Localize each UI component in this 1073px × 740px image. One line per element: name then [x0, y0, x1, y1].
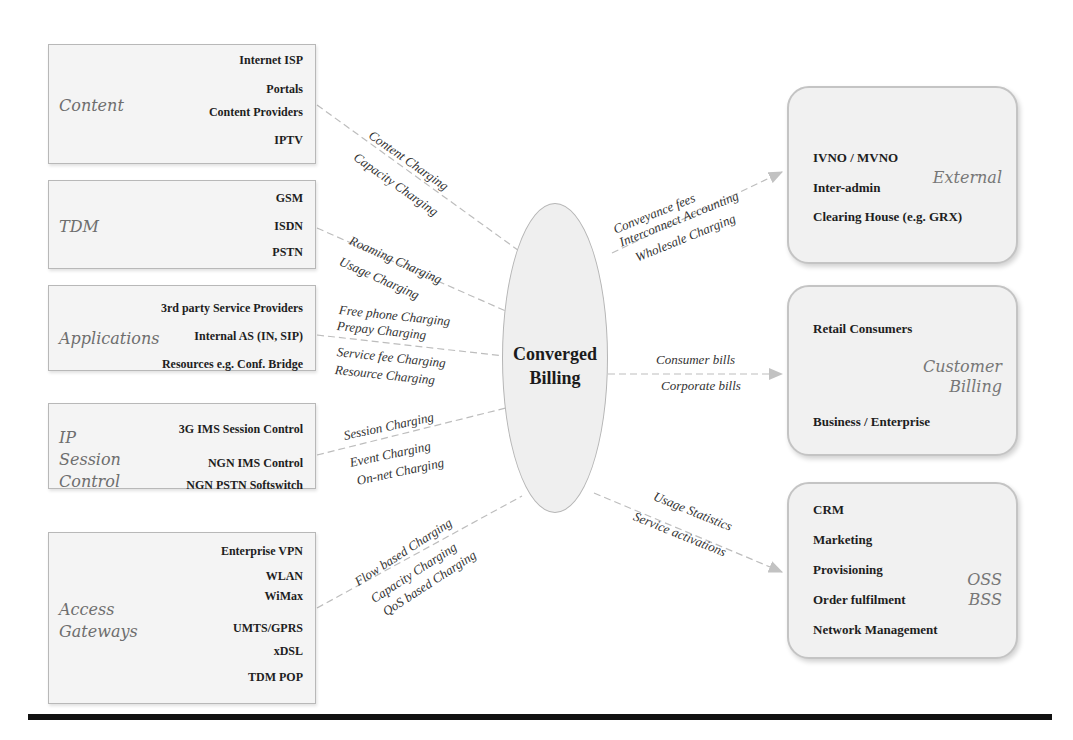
item-label: Provisioning	[813, 562, 883, 578]
item-label: Clearing House (e.g. GRX)	[813, 209, 962, 225]
item-label: Network Management	[813, 622, 938, 638]
item-label: GSM	[276, 191, 303, 206]
item-label: ISDN	[274, 219, 303, 234]
item-label: WLAN	[266, 569, 303, 584]
item-label: Content Providers	[209, 105, 303, 120]
item-label: Internal AS (IN, SIP)	[194, 329, 303, 344]
group-content: Content Internet ISP Portals Content Pro…	[48, 44, 316, 164]
category-label: Customer Billing	[923, 357, 1002, 397]
group-ip-session-control: IP Session Control 3G IMS Session Contro…	[48, 403, 316, 489]
item-label: Order fulfilment	[813, 592, 906, 608]
item-label: Resources e.g. Conf. Bridge	[162, 357, 303, 372]
item-label: 3G IMS Session Control	[179, 422, 303, 437]
item-label: Internet ISP	[239, 53, 303, 68]
item-label: NGN IMS Control	[208, 456, 303, 471]
item-label: Retail Consumers	[813, 321, 912, 337]
category-label: Content	[59, 95, 124, 117]
center-title: Converged Billing	[503, 342, 607, 390]
item-label: PSTN	[272, 245, 303, 260]
item-label: Inter-admin	[813, 180, 880, 196]
category-label: TDM	[59, 216, 99, 238]
converged-billing-node: Converged Billing	[502, 203, 608, 513]
item-label: IPTV	[274, 133, 303, 148]
category-label: IP Session Control	[59, 427, 121, 493]
item-label: TDM POP	[248, 670, 303, 685]
category-label: Access Gateways	[59, 599, 138, 643]
group-external: External IVNO / MVNO Inter-admin Clearin…	[787, 86, 1018, 264]
flow-label: Consumer bills	[656, 352, 735, 368]
item-label: Business / Enterprise	[813, 414, 930, 430]
group-customer-billing: Customer Billing Retail Consumers Busine…	[787, 285, 1018, 456]
item-label: WiMax	[265, 589, 303, 604]
item-label: Marketing	[813, 532, 872, 548]
group-access-gateways: Access Gateways Enterprise VPN WLAN WiMa…	[48, 532, 316, 704]
item-label: NGN PSTN Softswitch	[186, 478, 303, 493]
group-tdm: TDM GSM ISDN PSTN	[48, 180, 316, 269]
item-label: 3rd party Service Providers	[161, 301, 303, 316]
item-label: Enterprise VPN	[221, 544, 303, 559]
group-oss-bss: OSS BSS CRM Marketing Provisioning Order…	[787, 482, 1018, 659]
category-label: Applications	[59, 328, 159, 350]
item-label: xDSL	[274, 644, 303, 659]
category-label: OSS BSS	[967, 570, 1002, 610]
bottom-rule	[28, 714, 1052, 720]
category-label: External	[933, 168, 1002, 188]
item-label: IVNO / MVNO	[813, 150, 898, 166]
item-label: CRM	[813, 502, 844, 518]
item-label: Portals	[266, 82, 303, 97]
item-label: UMTS/GPRS	[233, 621, 303, 636]
flow-label: Corporate bills	[661, 378, 741, 394]
group-applications: Applications 3rd party Service Providers…	[48, 285, 316, 371]
